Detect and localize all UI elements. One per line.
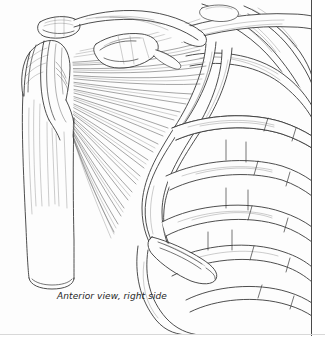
plate-right-border (311, 0, 312, 336)
figure-caption: Anterior view, right side (57, 291, 167, 302)
anatomy-line-art: .ln { fill:none; stroke:#3a3a3a; stroke-… (0, 0, 312, 335)
rib-stub-group (200, 5, 239, 22)
illustration-plate: .ln { fill:none; stroke:#3a3a3a; stroke-… (0, 0, 312, 335)
humerus-group (21, 40, 74, 289)
plate-bottom-border (0, 334, 325, 335)
anatomical-figure: .ln { fill:none; stroke:#3a3a3a; stroke-… (0, 0, 325, 342)
